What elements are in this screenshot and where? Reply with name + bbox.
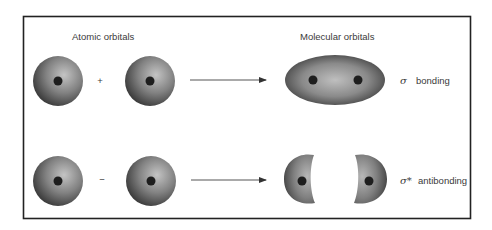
atomic-orbital-right [125,56,175,106]
nucleus [54,77,63,86]
bonding-label: bonding [416,75,450,86]
bonding-molecular-orbital [285,55,385,105]
nucleus [147,177,156,186]
atomic-orbital-left [33,156,83,206]
sigma-star-symbol: σ* [400,175,412,186]
nucleus [365,177,374,186]
sigma-symbol: σ [400,75,408,86]
nucleus [146,77,155,86]
nucleus [298,177,307,186]
molecular-orbitals-heading: Molecular orbitals [300,31,375,42]
atomic-orbital-left [33,56,83,106]
minus-operator: − [99,174,105,185]
nucleus [54,177,63,186]
plus-operator: + [97,75,103,86]
antibonding-label: antibonding [418,175,467,186]
nucleus [354,76,363,85]
nucleus [309,76,318,85]
atomic-orbitals-heading: Atomic orbitals [72,31,135,42]
diagram-frame [24,17,471,219]
orbital-diagram: Atomic orbitals Molecular orbitals + σ b… [0,0,492,230]
atomic-orbital-right [126,156,176,206]
